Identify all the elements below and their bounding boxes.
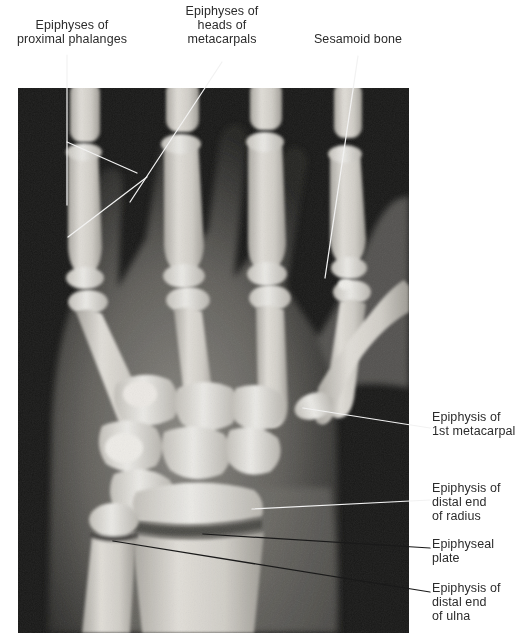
label-epiphyses-heads-of-metacarpals: Epiphyses of heads of metacarpals	[170, 4, 274, 47]
label-epiphyses-proximal-phalanges: Epiphyses of proximal phalanges	[6, 18, 138, 46]
radiograph-figure: Epiphyses of proximal phalanges Epiphyse…	[0, 0, 520, 633]
label-epiphysis-first-metacarpal: Epiphysis of 1st metacarpal	[432, 410, 520, 438]
label-sesamoid-bone: Sesamoid bone	[300, 32, 416, 46]
label-epiphysis-distal-ulna: Epiphysis of distal end of ulna	[432, 581, 520, 624]
label-epiphyseal-plate: Epiphyseal plate	[432, 537, 520, 565]
label-epiphysis-distal-radius: Epiphysis of distal end of radius	[432, 481, 520, 524]
xray-image	[18, 88, 409, 633]
